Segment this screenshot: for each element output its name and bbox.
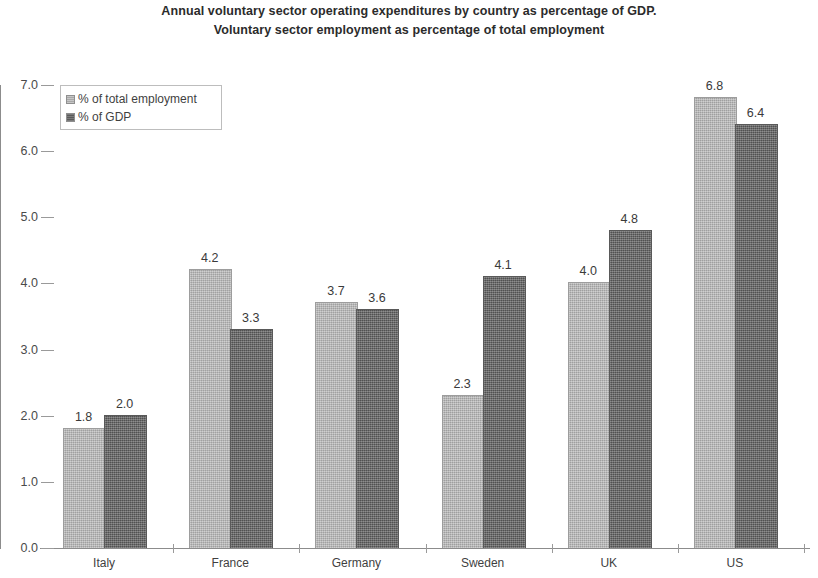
bar-value-label: 2.3 (438, 378, 487, 391)
chart-title: Annual voluntary sector operating expend… (0, 2, 818, 40)
legend-swatch-dark-gray-icon (66, 113, 75, 122)
bar-uk-gdp[interactable] (609, 230, 652, 548)
bar-value-label: 3.3 (226, 312, 275, 325)
x-axis-tick (804, 544, 805, 553)
bar-value-label: 1.8 (59, 411, 108, 424)
bar-france-gdp[interactable] (230, 329, 273, 548)
y-axis-tick-label: 2.0 (0, 410, 38, 422)
y-axis-tick-label: 7.0 (0, 79, 38, 91)
bar-value-label: 4.8 (605, 213, 654, 226)
bar-us-gdp[interactable] (735, 124, 778, 548)
chart-legend: % of total employment % of GDP (60, 85, 222, 130)
bar-value-label: 4.0 (564, 265, 613, 278)
bar-germany-gdp[interactable] (356, 309, 399, 548)
x-axis-label-sweden: Sweden (423, 556, 543, 570)
legend-label-gdp: % of GDP (78, 111, 131, 124)
bar-us-employment[interactable] (694, 97, 737, 548)
bar-sweden-employment[interactable] (442, 395, 485, 548)
y-axis-tick-label: 4.0 (0, 277, 38, 289)
legend-swatch-light-gray-icon (66, 95, 75, 104)
y-axis-tick-label: 1.0 (0, 476, 38, 488)
bar-italy-gdp[interactable] (104, 415, 147, 548)
legend-item-gdp[interactable]: % of GDP (66, 109, 131, 125)
x-axis-label-france: France (170, 556, 290, 570)
y-axis-tick-label: 3.0 (0, 344, 38, 356)
bar-sweden-gdp[interactable] (483, 276, 526, 548)
x-axis-label-uk: UK (549, 556, 669, 570)
x-axis-label-germany: Germany (296, 556, 416, 570)
y-axis-tick (41, 548, 54, 549)
y-axis-tick-label: 5.0 (0, 211, 38, 223)
legend-label-total-employment: % of total employment (78, 93, 197, 106)
bar-germany-employment[interactable] (315, 302, 358, 548)
legend-item-total-employment[interactable]: % of total employment (66, 91, 197, 107)
plot-area (47, 85, 804, 548)
bar-value-label: 3.6 (352, 292, 401, 305)
x-axis-label-us: US (675, 556, 795, 570)
x-axis-label-italy: Italy (44, 556, 164, 570)
bar-value-label: 4.2 (185, 252, 234, 265)
bar-italy-employment[interactable] (63, 428, 106, 548)
bar-value-label: 2.0 (100, 398, 149, 411)
chart-title-line-2: Voluntary sector employment as percentag… (0, 21, 818, 40)
bar-value-label: 4.1 (479, 259, 528, 272)
y-axis-tick-label: 6.0 (0, 145, 38, 157)
y-axis-tick-label: 0.0 (0, 542, 38, 554)
bar-value-label: 6.4 (731, 107, 780, 120)
bar-uk-employment[interactable] (568, 282, 611, 548)
chart-title-line-1: Annual voluntary sector operating expend… (0, 2, 818, 21)
bar-value-label: 6.8 (690, 80, 739, 93)
